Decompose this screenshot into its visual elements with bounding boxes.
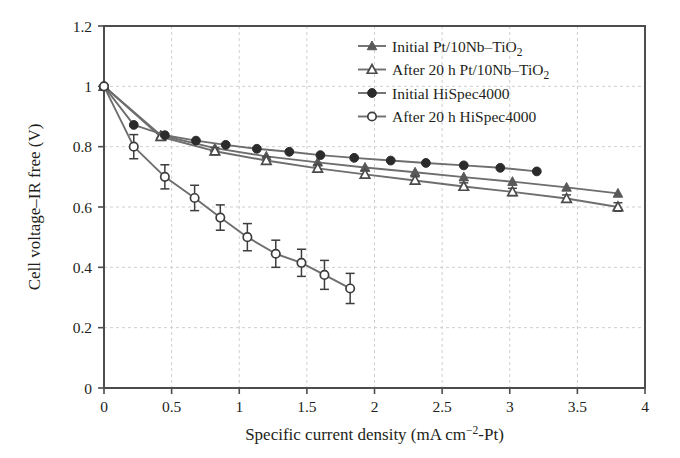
x-tick-label: 3.5 <box>568 398 588 415</box>
x-tick-label: 0 <box>100 398 108 415</box>
y-tick-labels: 00.20.40.60.811.2 <box>73 18 93 397</box>
data-point-marker <box>243 233 251 241</box>
data-point-marker <box>316 151 325 160</box>
x-tick-label: 2.5 <box>432 398 452 415</box>
data-point-marker <box>320 271 328 279</box>
y-tick-label: 0 <box>84 380 92 397</box>
data-point-marker <box>160 131 169 140</box>
data-point-marker <box>496 163 505 172</box>
data-point-marker <box>367 65 377 74</box>
data-point-marker <box>100 82 108 90</box>
chart-figure: 00.20.40.60.811.200.511.522.533.54Cell v… <box>0 0 680 458</box>
x-tick-label: 2 <box>371 398 379 415</box>
x-tick-label: 4 <box>641 398 649 415</box>
data-point-marker <box>252 144 261 153</box>
data-point-marker <box>368 89 377 98</box>
data-point-marker <box>346 284 354 292</box>
data-point-marker <box>297 259 305 267</box>
data-point-marker <box>272 250 280 258</box>
data-point-marker <box>368 112 376 120</box>
y-tick-label: 0.6 <box>73 199 93 216</box>
data-point-marker <box>130 142 138 150</box>
legend-item-3[interactable]: After 20 h HiSpec4000 <box>358 108 536 125</box>
data-point-marker <box>386 156 395 165</box>
x-tick-label: 0.5 <box>162 398 182 415</box>
data-point-marker <box>221 140 230 149</box>
y-tick-label: 0.4 <box>73 259 93 276</box>
series-0 <box>99 81 622 197</box>
series-line <box>104 86 350 288</box>
legend-item-0[interactable]: Initial Pt/10Nb–TiO2 <box>358 38 523 58</box>
data-point-marker <box>532 167 541 176</box>
data-point-marker <box>192 136 201 145</box>
x-tick-label: 1 <box>235 398 243 415</box>
x-tick-label: 3 <box>506 398 514 415</box>
legend-label: After 20 h HiSpec4000 <box>392 108 536 125</box>
y-tick-label: 0.8 <box>73 138 93 155</box>
x-tick-label: 1.5 <box>297 398 317 415</box>
x-tick-labels: 00.511.522.533.54 <box>100 398 649 415</box>
data-point-marker <box>161 173 169 181</box>
data-point-marker <box>190 194 198 202</box>
x-axis-label: Specific current density (mA cm−2-Pt) <box>245 424 504 444</box>
axis-ticks <box>98 26 645 394</box>
y-tick-label: 0.2 <box>73 319 92 336</box>
grid-lines <box>104 26 645 388</box>
data-point-marker <box>285 147 294 156</box>
data-point-marker <box>216 213 224 221</box>
data-point-marker <box>129 121 138 130</box>
legend-label: Initial Pt/10Nb–TiO2 <box>392 38 523 58</box>
legend: Initial Pt/10Nb–TiO2After 20 h Pt/10Nb–T… <box>358 38 549 126</box>
legend-label: After 20 h Pt/10Nb–TiO2 <box>392 61 549 81</box>
chart-canvas: 00.20.40.60.811.200.511.522.533.54Cell v… <box>0 0 680 458</box>
legend-label: Initial HiSpec4000 <box>392 85 510 102</box>
y-tick-label: 1.2 <box>73 18 92 35</box>
y-axis-label: Cell voltage–IR free (V) <box>25 124 44 291</box>
data-point-marker <box>421 159 430 168</box>
legend-item-2[interactable]: Initial HiSpec4000 <box>358 85 510 102</box>
legend-item-1[interactable]: After 20 h Pt/10Nb–TiO2 <box>358 61 549 81</box>
y-tick-label: 1 <box>84 78 92 95</box>
series-group <box>99 81 622 303</box>
data-point-marker <box>350 153 359 162</box>
data-point-marker <box>459 161 468 170</box>
